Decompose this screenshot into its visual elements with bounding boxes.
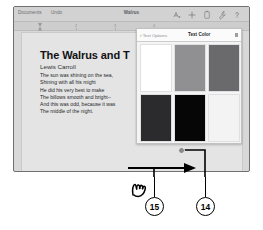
ruler-tick-2 — [76, 28, 77, 30]
format-brush-icon[interactable] — [172, 10, 182, 20]
chevron-left-icon: ‹ — [140, 32, 142, 38]
swipe-right-hand-icon — [133, 184, 146, 196]
document-title-label[interactable]: Walrus — [14, 10, 249, 15]
swatch-medium-gray[interactable] — [174, 44, 206, 92]
swatch-charcoal[interactable] — [140, 94, 172, 142]
poem-title[interactable]: The Walrus and T — [40, 49, 130, 61]
tab-stop-marker-bottom[interactable] — [38, 27, 42, 31]
callout-stem-14 — [205, 177, 207, 197]
callout-14: 14 — [196, 197, 215, 216]
help-question-icon[interactable] — [232, 10, 242, 20]
ipad-device-frame: Documents Undo Walrus — [13, 6, 250, 172]
wrench-icon[interactable] — [217, 10, 227, 20]
back-to-text-options-button[interactable]: ‹Text Options — [140, 32, 167, 38]
app-toolbar: Documents Undo Walrus — [14, 7, 249, 22]
swatch-white[interactable] — [140, 44, 172, 92]
popover-header: ‹Text Options Text Color — [137, 29, 241, 42]
swatch-dark-gray[interactable] — [208, 44, 240, 92]
callout-stem-15 — [154, 177, 156, 197]
poem-author[interactable]: Lewis Carroll — [40, 63, 76, 70]
insert-plus-icon[interactable] — [187, 10, 197, 20]
tab-stop-marker-top[interactable] — [38, 23, 42, 27]
swatch-black[interactable] — [174, 94, 206, 142]
text-color-popover: ‹Text Options Text Color — [136, 28, 242, 144]
ruler-tick-3 — [115, 28, 116, 30]
selection-point-dot — [178, 147, 185, 154]
popover-title: Text Color — [188, 32, 210, 37]
color-swatch-grid[interactable] — [140, 44, 240, 142]
popover-resize-grip[interactable] — [235, 33, 238, 37]
callout-15: 15 — [145, 197, 164, 216]
back-label: Text Options — [143, 33, 167, 38]
document-tools-icon[interactable] — [202, 10, 212, 20]
swatch-off-white[interactable] — [208, 94, 240, 142]
